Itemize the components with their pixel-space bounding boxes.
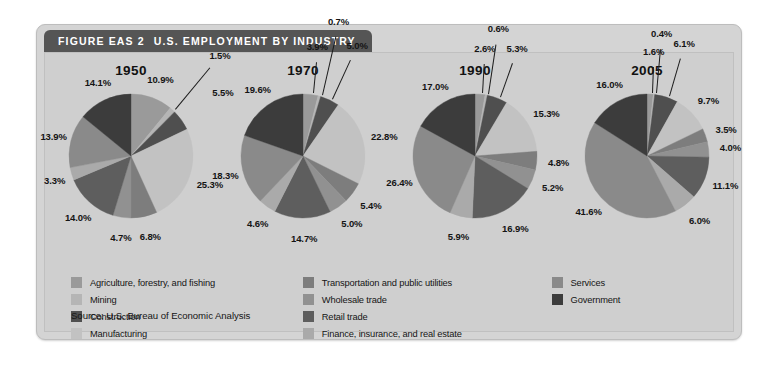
legend-swatch-icon bbox=[552, 294, 563, 305]
pie-value-label: 17.0% bbox=[422, 80, 448, 91]
pie-chart-1970: 19703.9%0.7%5.0%22.8%5.4%5.0%14.7%4.6%18… bbox=[217, 59, 389, 271]
legend-column-2: Transportation and public utilitiesWhole… bbox=[303, 275, 522, 337]
legend-column-3: ServicesGovernment bbox=[552, 275, 693, 337]
pie-value-label: 4.7% bbox=[110, 231, 131, 242]
pie-value-label: 16.0% bbox=[596, 79, 622, 90]
pie-value-label: 16.9% bbox=[502, 223, 528, 234]
pie-value-label: 0.4% bbox=[651, 28, 672, 39]
pie-value-label: 13.9% bbox=[40, 130, 66, 141]
pie-value-label: 14.1% bbox=[85, 77, 111, 88]
pie-chart-1990: 19902.6%0.6%5.3%15.3%4.8%5.2%16.9%5.9%26… bbox=[389, 59, 561, 271]
legend-label: Wholesale trade bbox=[322, 295, 387, 305]
legend-label: Agriculture, forestry, and fishing bbox=[90, 278, 215, 288]
pie-value-label: 9.7% bbox=[698, 94, 719, 105]
pie-value-label: 41.6% bbox=[575, 206, 601, 217]
pie-value-label: 5.3% bbox=[506, 42, 527, 53]
legend-item: Mining bbox=[71, 292, 273, 308]
pie-value-label: 0.6% bbox=[488, 23, 509, 34]
legend-swatch-icon bbox=[71, 294, 82, 305]
figure-number: FIGURE EAS 2 bbox=[58, 35, 145, 47]
chart-legend: Agriculture, forestry, and fishingMining… bbox=[71, 275, 723, 337]
legend-item: Finance, insurance, and real estate bbox=[303, 326, 522, 342]
pie-chart-2005: 20051.6%0.4%6.1%9.7%3.5%4.0%11.1%6.0%41.… bbox=[561, 59, 733, 271]
pie-value-label: 6.1% bbox=[674, 37, 695, 48]
pie-value-label: 5.4% bbox=[360, 199, 381, 210]
pie-value-label: 2.6% bbox=[474, 43, 495, 54]
legend-label: Retail trade bbox=[322, 312, 368, 322]
pie-value-label: 3.5% bbox=[715, 123, 736, 134]
legend-item: Manufacturing bbox=[71, 326, 273, 342]
source-note: Source: U.S. Bureau of Economic Analysis bbox=[71, 310, 250, 321]
legend-column-1: Agriculture, forestry, and fishingMining… bbox=[71, 275, 273, 337]
legend-item: Transportation and public utilities bbox=[303, 275, 522, 291]
legend-label: Transportation and public utilities bbox=[322, 278, 452, 288]
chart-year-label: 1990 bbox=[389, 63, 561, 78]
pie-wrap: 2.6%0.6%5.3%15.3%4.8%5.2%16.9%5.9%26.4%1… bbox=[389, 78, 561, 254]
legend-label: Services bbox=[571, 278, 605, 288]
pie-chart-row: 195010.9%1.5%5.5%25.3%6.8%4.7%14.0%3.3%1… bbox=[45, 59, 733, 271]
pie-value-label: 18.3% bbox=[212, 170, 238, 181]
pie-value-label: 5.9% bbox=[448, 230, 469, 241]
pie-value-label: 5.0% bbox=[347, 39, 368, 50]
pie-graphic-1950 bbox=[61, 86, 201, 226]
pie-wrap: 10.9%1.5%5.5%25.3%6.8%4.7%14.0%3.3%13.9%… bbox=[45, 78, 217, 254]
legend-item: Wholesale trade bbox=[303, 292, 522, 308]
legend-swatch-icon bbox=[303, 277, 314, 288]
pie-value-label: 4.6% bbox=[247, 217, 268, 228]
pie-value-label: 6.8% bbox=[140, 230, 161, 241]
legend-swatch-icon bbox=[303, 328, 314, 339]
pie-value-label: 19.6% bbox=[245, 84, 271, 95]
pie-wrap: 1.6%0.4%6.1%9.7%3.5%4.0%11.1%6.0%41.6%16… bbox=[561, 78, 733, 254]
pie-value-label: 11.1% bbox=[712, 180, 738, 191]
legend-swatch-icon bbox=[71, 328, 82, 339]
legend-item: Retail trade bbox=[303, 309, 522, 325]
chart-year-label: 2005 bbox=[561, 63, 733, 78]
pie-value-label: 10.9% bbox=[147, 73, 173, 84]
legend-label: Mining bbox=[90, 295, 117, 305]
pie-value-label: 0.7% bbox=[328, 16, 349, 27]
pie-value-label: 4.0% bbox=[720, 142, 741, 153]
pie-chart-1950: 195010.9%1.5%5.5%25.3%6.8%4.7%14.0%3.3%1… bbox=[45, 59, 217, 271]
pie-graphic-1970 bbox=[233, 86, 373, 226]
chart-year-label: 1970 bbox=[217, 63, 389, 78]
pie-graphic-1990 bbox=[405, 86, 545, 226]
figure-panel: FIGURE EAS 2 U.S. EMPLOYMENT BY INDUSTRY… bbox=[36, 24, 742, 340]
chart-year-label: 1950 bbox=[45, 63, 217, 78]
pie-wrap: 3.9%0.7%5.0%22.8%5.4%5.0%14.7%4.6%18.3%1… bbox=[217, 78, 389, 254]
legend-label: Government bbox=[571, 295, 621, 305]
legend-swatch-icon bbox=[303, 311, 314, 322]
pie-value-label: 26.4% bbox=[386, 177, 412, 188]
pie-value-label: 1.6% bbox=[643, 46, 664, 57]
legend-item: Agriculture, forestry, and fishing bbox=[71, 275, 273, 291]
pie-value-label: 15.3% bbox=[533, 107, 559, 118]
pie-value-label: 14.7% bbox=[291, 232, 317, 243]
legend-swatch-icon bbox=[71, 277, 82, 288]
pie-value-label: 3.9% bbox=[307, 41, 328, 52]
pie-value-label: 6.0% bbox=[689, 215, 710, 226]
legend-item: Government bbox=[552, 292, 693, 308]
legend-item: Services bbox=[552, 275, 693, 291]
legend-swatch-icon bbox=[552, 277, 563, 288]
pie-value-label: 5.0% bbox=[341, 218, 362, 229]
figure-body: 195010.9%1.5%5.5%25.3%6.8%4.7%14.0%3.3%1… bbox=[44, 52, 734, 332]
legend-swatch-icon bbox=[303, 294, 314, 305]
legend-label: Finance, insurance, and real estate bbox=[322, 329, 462, 339]
legend-label: Manufacturing bbox=[90, 329, 147, 339]
pie-value-label: 14.0% bbox=[65, 211, 91, 222]
pie-value-label: 3.3% bbox=[44, 174, 65, 185]
